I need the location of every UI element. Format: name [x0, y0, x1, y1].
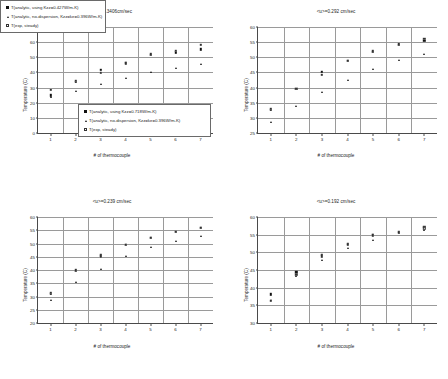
data-point: [150, 71, 152, 73]
x-tick-label: 1: [270, 327, 272, 332]
x-tick-mark: [398, 323, 399, 326]
x-tick-mark: [50, 323, 51, 326]
data-point: [295, 88, 297, 90]
gridline-vertical: [113, 217, 114, 323]
y-tick-label: 40: [250, 285, 255, 290]
gridline-horizontal: [38, 270, 213, 271]
x-tick-mark: [321, 323, 322, 326]
data-point: [372, 234, 374, 236]
x-tick-label: 7: [199, 137, 201, 142]
y-tick-mark: [36, 42, 38, 43]
gridline-horizontal: [258, 252, 437, 253]
x-tick-mark: [424, 323, 425, 326]
gridline-vertical: [386, 27, 387, 133]
y-tick-label: 45: [30, 254, 35, 259]
legend-label: T(exp, steady): [89, 127, 116, 132]
data-point: [321, 91, 323, 93]
y-tick-label: 30: [30, 85, 35, 90]
data-point: [124, 62, 126, 64]
y-tick-mark: [36, 256, 38, 257]
x-tick-label: 5: [149, 137, 151, 142]
data-point: [175, 67, 177, 69]
chart-legend-d: T(analytic, using Kzz=0.427W/m-K) T(anal…: [0, 0, 106, 33]
y-tick-label: 20: [30, 100, 35, 105]
data-point: [423, 53, 425, 55]
data-point: [125, 255, 127, 257]
data-point: [149, 53, 151, 55]
legend-label: T(analytic, no-dispersion, Kzz=ke=0.396W…: [11, 14, 102, 19]
data-point: [321, 255, 323, 257]
data-point: [423, 37, 425, 39]
data-point: [174, 231, 176, 233]
filled-square-icon: [82, 110, 89, 112]
x-tick-label: 4: [124, 137, 126, 142]
gridline-horizontal: [258, 103, 437, 104]
y-tick-mark: [36, 230, 38, 231]
gridline-horizontal: [258, 72, 437, 73]
y-tick-label: 25: [30, 307, 35, 312]
gridline-vertical: [188, 217, 189, 323]
x-tick-label: 3: [321, 137, 323, 142]
data-point: [270, 293, 272, 295]
y-tick-label: 55: [30, 228, 35, 233]
data-point: [74, 79, 76, 81]
chart-title: <u>=0.192 cm/sec: [224, 199, 448, 204]
data-point: [295, 105, 297, 107]
y-axis-label: Temperature (C): [23, 268, 28, 301]
y-tick-mark: [256, 27, 258, 28]
y-tick-mark: [36, 270, 38, 271]
x-tick-label: 1: [270, 137, 272, 142]
y-tick-label: 10: [30, 115, 35, 120]
x-tick-mark: [150, 323, 151, 326]
y-tick-label: 40: [30, 70, 35, 75]
x-tick-mark: [270, 133, 271, 136]
gridline-vertical: [335, 217, 336, 323]
data-point: [397, 231, 399, 233]
data-point: [74, 269, 76, 271]
y-tick-label: 45: [250, 268, 255, 273]
data-point: [149, 237, 151, 239]
data-point: [75, 90, 77, 92]
chart-panel-b: <u>=0.292 cm/sec Temperature (C) 2530354…: [224, 0, 448, 189]
x-tick-label: 4: [124, 327, 126, 332]
y-tick-label: 40: [30, 268, 35, 273]
y-tick-mark: [36, 133, 38, 134]
y-tick-label: 25: [250, 131, 255, 136]
gridline-vertical: [284, 217, 285, 323]
data-point: [199, 44, 201, 46]
x-tick-mark: [296, 323, 297, 326]
y-tick-mark: [256, 305, 258, 306]
chart-title: <u>=0.292 cm/sec: [224, 9, 448, 14]
gridline-horizontal: [258, 118, 437, 119]
y-axis-label: Temperature (C): [244, 268, 249, 301]
gridline-vertical: [88, 217, 89, 323]
y-tick-label: 0: [33, 131, 35, 136]
data-point: [99, 71, 101, 73]
x-tick-mark: [270, 323, 271, 326]
open-square-icon: [82, 128, 89, 130]
gridline-horizontal: [258, 235, 437, 236]
x-tick-label: 7: [423, 327, 425, 332]
gridline-vertical: [309, 27, 310, 133]
legend-item: T(exp, steady): [82, 125, 207, 134]
data-point: [125, 77, 127, 79]
x-tick-mark: [50, 133, 51, 136]
x-tick-mark: [200, 323, 201, 326]
y-tick-label: 60: [250, 25, 255, 30]
x-tick-label: 6: [174, 137, 176, 142]
y-tick-mark: [36, 323, 38, 324]
y-tick-label: 35: [30, 281, 35, 286]
gridline-vertical: [63, 217, 64, 323]
y-tick-mark: [36, 296, 38, 297]
data-point: [175, 240, 177, 242]
legend-label: T(analytic, using Kzz=0.718W/m-K): [89, 109, 156, 114]
x-tick-mark: [75, 133, 76, 136]
legend-label: T(analytic, using Kzz=0.427W/m-K): [11, 5, 78, 10]
data-point: [270, 300, 272, 302]
y-tick-mark: [256, 133, 258, 134]
data-point: [50, 299, 52, 301]
y-tick-mark: [36, 72, 38, 73]
gridline-vertical: [309, 217, 310, 323]
x-tick-label: 7: [199, 327, 201, 332]
data-point: [49, 292, 51, 294]
